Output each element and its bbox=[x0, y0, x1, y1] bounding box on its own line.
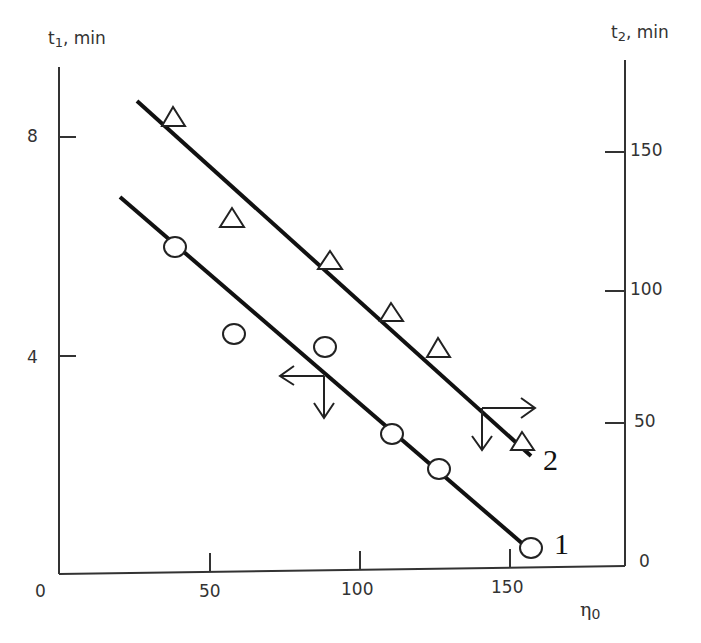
data-point-circle bbox=[164, 237, 186, 257]
series-2-fit-line bbox=[137, 101, 531, 456]
y-right-title-unit: , min bbox=[626, 22, 669, 42]
y-left-tick-label-8: 8 bbox=[27, 126, 38, 146]
axes bbox=[59, 60, 625, 574]
series-1-label: 1 bbox=[554, 527, 569, 561]
y-right-tick-label-0: 0 bbox=[639, 551, 650, 571]
y-left-title-unit: , min bbox=[63, 28, 106, 48]
data-point-triangle bbox=[427, 338, 450, 357]
data-point-triangle bbox=[220, 208, 244, 227]
data-point-circle bbox=[223, 324, 245, 344]
y-left-title-text: t bbox=[48, 28, 55, 48]
y-right-title-text: t bbox=[611, 22, 618, 42]
x-title-text: η bbox=[580, 598, 591, 620]
data-point-circle bbox=[428, 459, 450, 479]
x-tick-label-50: 50 bbox=[199, 581, 221, 601]
y-right-tick-label-100: 100 bbox=[630, 279, 662, 299]
data-point-triangle bbox=[318, 251, 342, 269]
y-right-title-subscript: 2 bbox=[618, 29, 626, 44]
series-2-markers bbox=[162, 107, 534, 450]
y-right-tick-label-150: 150 bbox=[630, 140, 662, 160]
y-left-axis-title: t1, min bbox=[48, 28, 106, 50]
x-axis-title: η0 bbox=[580, 598, 600, 622]
x-title-subscript: 0 bbox=[591, 606, 600, 622]
y-left-title-subscript: 1 bbox=[55, 35, 63, 50]
data-point-circle bbox=[520, 538, 542, 558]
x-tick-label-150: 150 bbox=[491, 577, 523, 597]
y-left-tick-label-4: 4 bbox=[27, 347, 38, 367]
x-tick-label-100: 100 bbox=[341, 579, 373, 599]
series-2-label: 2 bbox=[543, 443, 558, 477]
data-point-circle bbox=[381, 424, 403, 444]
y-right-tick-label-50: 50 bbox=[634, 411, 656, 431]
fit-lines bbox=[120, 101, 531, 545]
ticks bbox=[59, 137, 625, 572]
data-point-triangle bbox=[162, 107, 185, 126]
data-point-circle bbox=[314, 337, 336, 357]
x-tick-label-0: 0 bbox=[35, 581, 46, 601]
bottom-axis bbox=[59, 566, 625, 574]
data-point-triangle bbox=[380, 303, 403, 321]
chart-canvas bbox=[0, 0, 701, 643]
y-right-axis-title: t2, min bbox=[611, 22, 669, 44]
